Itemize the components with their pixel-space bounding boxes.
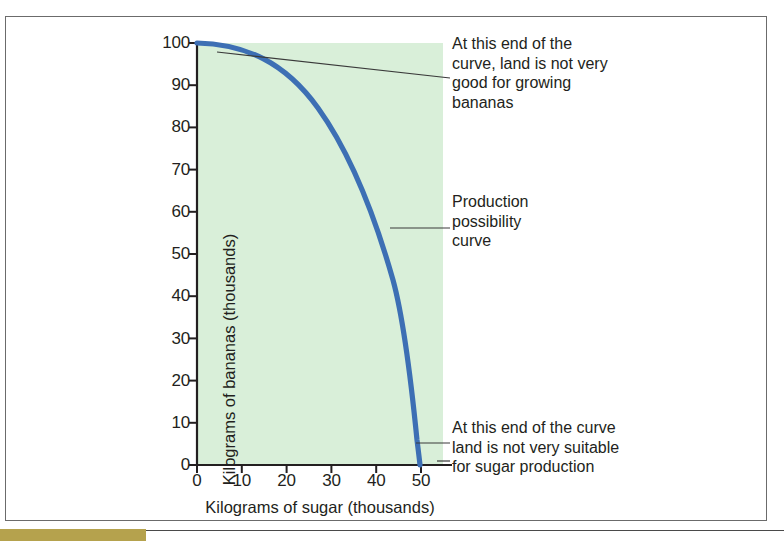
y-axis-title-holder: Kilograms of bananas (thousands)	[123, 100, 145, 400]
y-tick-label: 0	[146, 456, 190, 473]
y-tick-label: 30	[146, 330, 190, 347]
x-tick-label: 20	[267, 472, 307, 489]
x-tick-label: 40	[356, 472, 396, 489]
y-tick-label: 10	[146, 414, 190, 431]
y-tick-label: 100	[146, 34, 190, 51]
y-axis-tick-labels: 100 90 80 70 60 50 40 30 20 10 0	[140, 0, 190, 541]
y-tick-label: 80	[146, 118, 190, 135]
y-tick-label: 90	[146, 76, 190, 93]
x-tick-label: 30	[311, 472, 351, 489]
x-axis-title: Kilograms of sugar (thousands)	[140, 498, 500, 517]
x-tick-label: 50	[401, 472, 441, 489]
y-tick-label: 50	[146, 245, 190, 262]
x-tick-label: 0	[177, 472, 217, 489]
y-axis-title: Kilograms of bananas (thousands)	[220, 210, 239, 510]
annotation-middle-text: Production possibility curve	[452, 192, 652, 251]
y-tick-label: 60	[146, 203, 190, 220]
bottom-color-bar	[0, 529, 146, 541]
annotation-top-text: At this end of the curve, land is not ve…	[452, 34, 682, 112]
bottom-rule	[145, 530, 784, 531]
y-tick-label: 20	[146, 372, 190, 389]
chart-page: 100 90 80 70 60 50 40 30 20 10 0 0 10 20…	[0, 0, 784, 541]
y-tick-label: 40	[146, 287, 190, 304]
annotation-bottom-text: At this end of the curve land is not ver…	[452, 418, 702, 477]
y-tick-label: 70	[146, 161, 190, 178]
